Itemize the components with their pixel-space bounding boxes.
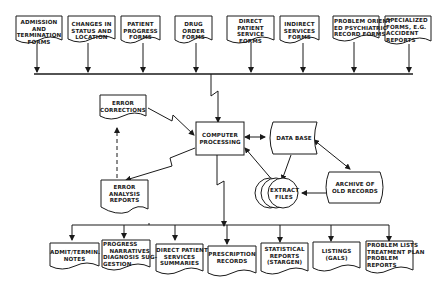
- label-line: DIRECT: [227, 18, 274, 25]
- input-form-problem-oriented: PROBLEM ORIENT ED PSYCHIATRIC RECORD FOR…: [334, 18, 379, 38]
- label-line: ED PSYCHIATRIC: [334, 25, 379, 32]
- extract-files-node: EXTRACT FILES: [270, 187, 298, 200]
- label-line: PATIENT: [227, 25, 274, 32]
- label-line: FILES: [270, 194, 298, 201]
- label-line: DATA BASE: [273, 135, 315, 142]
- label-line: STATUS AND: [68, 28, 115, 35]
- label-line: EXTRACT: [270, 187, 298, 194]
- label-line: CORRECTIONS: [100, 107, 146, 114]
- input-form-patient-progress: PATIENT PROGRESS FORMS: [121, 21, 160, 41]
- error-corrections-node: ERROR CORRECTIONS: [100, 100, 146, 113]
- label-line: PROCESSING: [196, 139, 244, 146]
- label-line: REPORTS: [386, 37, 431, 44]
- data-base-node: DATA BASE: [273, 135, 315, 142]
- label-line: ADMISSION: [16, 19, 62, 26]
- label-line: ARCHIVE OF: [329, 181, 381, 188]
- label-line: FORMS: [16, 39, 62, 46]
- label-line: ANALYSIS: [101, 191, 148, 198]
- label-line: SPECIALIZED: [386, 17, 431, 24]
- label-line: FORMS: [227, 38, 274, 45]
- label-line: REPORTS: [367, 262, 413, 269]
- output-admit-termin: ADMIT/TERMIN. NOTES: [50, 249, 99, 262]
- label-line: PROBLEM ORIENT: [334, 18, 379, 25]
- label-line: DRUG: [175, 21, 212, 28]
- input-form-drug-order: DRUG ORDER FORMS: [175, 21, 212, 41]
- error-analysis-node: ERROR ANALYSIS REPORTS: [101, 184, 148, 204]
- label-line: NARRATIVES: [103, 248, 150, 255]
- label-line: RECORD FORMS: [334, 31, 379, 38]
- label-line: SERVICES: [280, 28, 319, 35]
- output-progress-narratives: PROGRESS NARRATIVES DIAGNOSIS SUG- GESTI…: [103, 241, 150, 267]
- input-form-admission: ADMISSION AND TERMINATION FORMS: [16, 19, 62, 45]
- label-line: PROGRESS: [121, 28, 160, 35]
- label-line: PROGRESS: [103, 241, 150, 248]
- label-line: TERMINATION: [16, 32, 62, 39]
- label-line: PATIENT: [121, 21, 160, 28]
- label-line: ACCIDENT: [386, 30, 431, 37]
- label-line: SUMMARIES: [156, 260, 203, 267]
- label-line: INDIRECT: [280, 21, 319, 28]
- input-form-specialized: SPECIALIZED FORMS, E.G. ACCIDENT REPORTS: [386, 17, 431, 43]
- label-line: PROBLEM: [367, 255, 413, 262]
- label-line: PRESCRIPTION: [208, 251, 256, 258]
- label-line: STATISTICAL: [261, 246, 308, 253]
- label-line: DIRECT PATIENT: [156, 247, 203, 254]
- label-line: GESTION: [103, 261, 150, 268]
- output-prescription-records: PRESCRIPTION RECORDS: [208, 251, 256, 264]
- label-line: COMPUTER: [196, 132, 244, 139]
- label-line: LISTINGS: [313, 248, 360, 255]
- archive-node: ARCHIVE OF OLD RECORDS: [329, 181, 381, 194]
- label-line: REPORTS: [261, 253, 308, 260]
- input-form-changes-status: CHANGES IN STATUS AND LOCATION: [68, 21, 115, 41]
- label-line: OLD RECORDS: [329, 188, 381, 195]
- label-line: FORMS, E.G.: [386, 24, 431, 31]
- computer-processing-node: COMPUTER PROCESSING: [196, 132, 244, 145]
- label-line: SERVICES: [156, 254, 203, 261]
- label-line: LOCATION: [68, 34, 115, 41]
- output-listings: LISTINGS (GALS): [313, 248, 360, 261]
- label-line: NOTES: [50, 256, 99, 263]
- label-line: REPORTS: [101, 197, 148, 204]
- label-line: (STARGEN): [261, 259, 308, 266]
- label-line: (GALS): [313, 255, 360, 262]
- label-line: AND: [16, 26, 62, 33]
- output-problem-lists: PROBLEM LISTS TREATMENT PLAN PROBLEM REP…: [367, 242, 413, 268]
- label-line: SERVICE: [227, 31, 274, 38]
- label-line: TREATMENT PLAN: [367, 249, 413, 256]
- label-line: FORMS: [121, 34, 160, 41]
- label-line: DIAGNOSIS SUG-: [103, 254, 150, 261]
- label-line: PROBLEM LISTS: [367, 242, 413, 249]
- label-line: ORDER: [175, 28, 212, 35]
- label-line: FORMS: [280, 34, 319, 41]
- output-statistical-reports: STATISTICAL REPORTS (STARGEN): [261, 246, 308, 266]
- label-line: CHANGES IN: [68, 21, 115, 28]
- output-direct-patient-services: DIRECT PATIENT SERVICES SUMMARIES: [156, 247, 203, 267]
- label-line: ERROR: [100, 100, 146, 107]
- label-line: FORMS: [175, 34, 212, 41]
- label-line: RECORDS: [208, 258, 256, 265]
- input-form-direct-patient-service: DIRECT PATIENT SERVICE FORMS: [227, 18, 274, 44]
- label-line: ADMIT/TERMIN.: [50, 249, 99, 256]
- label-line: ERROR: [101, 184, 148, 191]
- input-form-indirect-services: INDIRECT SERVICES FORMS: [280, 21, 319, 41]
